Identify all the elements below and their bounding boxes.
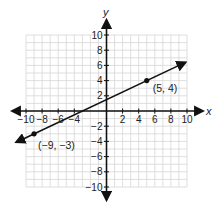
y-axis-label: y: [102, 6, 110, 18]
y-tick-label: −4: [91, 136, 103, 147]
x-axis-label: x: [205, 105, 212, 117]
x-tick-label: −8: [36, 114, 48, 125]
y-tick-label: −6: [91, 151, 103, 162]
y-tick-label: 6: [97, 60, 103, 71]
point-label: (5, 4): [153, 82, 178, 94]
y-tick-label: −8: [91, 166, 103, 177]
data-point: [144, 78, 149, 83]
y-tick-label: −2: [91, 121, 103, 132]
axes: [12, 20, 203, 200]
coordinate-plane: −10−8−6−4246810108642−2−4−6−8−10 (−9, −3…: [0, 0, 217, 206]
x-tick-label: 8: [168, 114, 174, 125]
x-tick-label: 2: [120, 114, 126, 125]
point-label: (−9, −3): [38, 139, 75, 151]
x-tick-label: 4: [136, 114, 142, 125]
data-point: [31, 131, 36, 136]
y-tick-label: 10: [91, 30, 103, 41]
x-tick-label: 6: [152, 114, 158, 125]
y-tick-label: 8: [97, 45, 103, 56]
x-tick-label: −4: [69, 114, 81, 125]
y-tick-label: 4: [97, 75, 103, 86]
x-tick-label: 10: [181, 114, 193, 125]
y-tick-label: 2: [97, 90, 103, 101]
y-tick-label: −10: [86, 182, 103, 193]
x-tick-label: −10: [18, 114, 35, 125]
